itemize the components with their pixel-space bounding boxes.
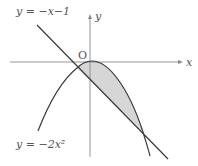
shaded-region: [77, 61, 143, 132]
line-equation-label: y = −x−1: [15, 5, 70, 18]
y-axis-label: y: [94, 10, 102, 23]
x-axis-arrow-icon: [178, 60, 183, 64]
graph-canvas: y = −x−1 y = −2x² O x y: [0, 0, 198, 166]
y-axis-arrow-icon: [88, 14, 92, 19]
x-axis-label: x: [186, 56, 193, 69]
parabola-equation-label: y = −2x²: [15, 138, 65, 151]
origin-label: O: [78, 49, 87, 62]
